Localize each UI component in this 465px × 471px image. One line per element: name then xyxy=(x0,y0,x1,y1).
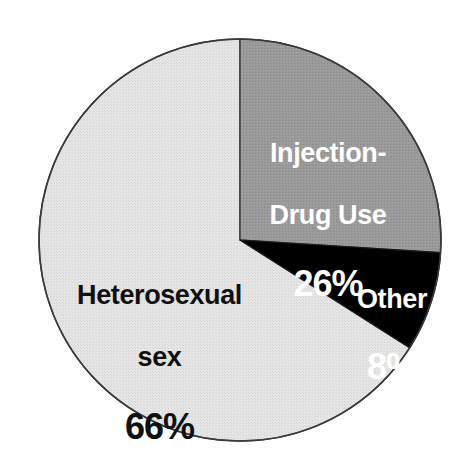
pie-chart-figure: Injection- Drug Use 26% Other 8% Heteros… xyxy=(0,0,465,471)
pie-slice-injection-drug-use[interactable] xyxy=(240,39,441,253)
pie-chart-canvas xyxy=(0,0,465,471)
